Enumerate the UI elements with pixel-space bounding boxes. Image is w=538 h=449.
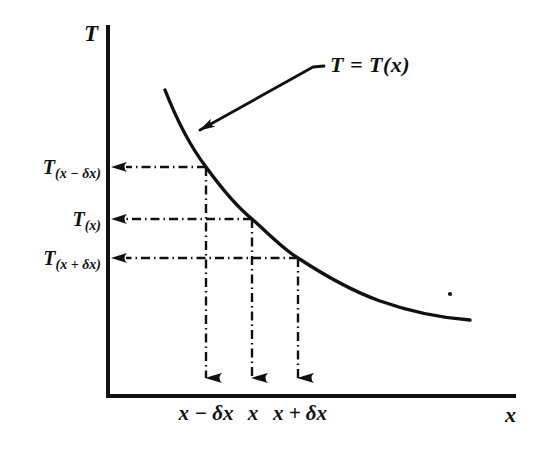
y-marker-label-2-sub: (x) xyxy=(85,218,101,233)
y-marker-label-1-sub: (x − δx) xyxy=(55,166,101,181)
x-marker-label-3: x + δx xyxy=(273,403,327,424)
curve-label: T = T(x) xyxy=(330,54,410,76)
y-marker-label-1-main: T xyxy=(43,156,55,178)
y-marker-label-2-main: T xyxy=(72,208,84,230)
y-marker-label-3-sub: (x + δx) xyxy=(56,257,101,272)
y-marker-label-2: T(x) xyxy=(0,209,101,233)
x-marker-label-2: x xyxy=(248,403,259,424)
y-marker-label-3-main: T xyxy=(43,247,55,269)
curve-label-leader-line xyxy=(200,66,324,130)
scan-speck xyxy=(448,292,452,296)
y-marker-label-3: T(x + δx) xyxy=(0,248,101,272)
x-axis-label: x xyxy=(505,404,516,426)
figure-container: T x T = T(x) T(x − δx) T(x) T(x + δx) x … xyxy=(0,0,538,449)
x-marker-label-1: x − δx xyxy=(179,403,234,424)
y-axis-label: T xyxy=(84,22,98,45)
y-marker-label-1: T(x − δx) xyxy=(0,157,101,181)
